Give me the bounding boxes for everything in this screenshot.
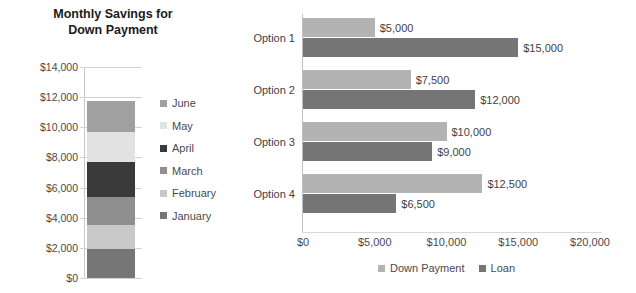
category-label-option-1: Option 1	[229, 32, 303, 44]
stack-segment-april	[87, 162, 135, 197]
legend-label: Down Payment	[390, 262, 465, 274]
stack-segment-february	[87, 225, 135, 250]
legend-label: March	[172, 165, 203, 177]
right-chart-plot-area: Option 1Option 2Option 3Option 4 $5,000$…	[303, 14, 590, 232]
left-chart-y-tick-label: $4,000	[10, 212, 85, 224]
legend-label: June	[172, 97, 196, 109]
bar-option-3-loan	[303, 142, 432, 161]
legend-label: April	[172, 142, 194, 154]
legend-item-loan[interactable]: Loan	[479, 262, 515, 274]
right-chart-legend: Down PaymentLoan	[303, 262, 590, 274]
category-label-option-2: Option 2	[229, 84, 303, 96]
left-chart-y-tick-label: $8,000	[10, 151, 85, 163]
legend-label: February	[172, 187, 216, 199]
bar-value-label-option-2-down-payment: $7,500	[411, 74, 450, 86]
bar-option-1-down-payment	[303, 18, 375, 37]
legend-swatch-icon	[378, 265, 385, 272]
left-chart-y-tick-label: $6,000	[10, 182, 85, 194]
left-chart-gridline	[80, 97, 142, 98]
options-comparison-bar-chart: Option 1Option 2Option 3Option 4 $5,000$…	[232, 0, 636, 293]
legend-swatch-icon	[479, 265, 486, 272]
bar-value-label-option-4-loan: $6,500	[396, 198, 435, 210]
bar-value-label-option-3-loan: $9,000	[432, 146, 471, 158]
left-chart-y-tick-label: $12,000	[10, 91, 85, 103]
left-chart-gridline	[80, 67, 142, 68]
right-chart-x-tick-label: $0	[297, 236, 309, 248]
right-chart-x-tick-label: $5,000	[358, 236, 392, 248]
left-chart-y-tick-label: $14,000	[10, 61, 85, 73]
bar-option-2-loan	[303, 90, 475, 109]
legend-label: Loan	[491, 262, 515, 274]
stack-segment-january	[87, 249, 135, 278]
bar-value-label-option-4-down-payment: $12,500	[482, 178, 527, 190]
monthly-savings-stacked-chart: Monthly Savings for Down Payment $14,000…	[0, 0, 245, 293]
left-chart-gridline	[80, 278, 142, 279]
legend-item-down-payment[interactable]: Down Payment	[378, 262, 465, 274]
category-label-option-3: Option 3	[229, 136, 303, 148]
legend-item-january[interactable]: January	[160, 210, 216, 222]
category-label-option-4: Option 4	[229, 188, 303, 200]
left-chart-title: Monthly Savings for Down Payment	[8, 6, 218, 38]
legend-swatch-icon	[160, 167, 167, 174]
left-chart-legend: JuneMayAprilMarchFebruaryJanuary	[160, 97, 216, 222]
legend-item-february[interactable]: February	[160, 187, 216, 199]
stack-segment-may	[87, 132, 135, 162]
legend-swatch-icon	[160, 212, 167, 219]
stack-segment-june	[87, 101, 135, 132]
left-chart-title-line-1: Monthly Savings for	[8, 6, 218, 22]
bar-option-4-loan	[303, 194, 396, 213]
legend-swatch-icon	[160, 145, 167, 152]
bar-value-label-option-3-down-payment: $10,000	[447, 126, 492, 138]
legend-item-june[interactable]: June	[160, 97, 216, 109]
left-chart-y-tick-label: $10,000	[10, 121, 85, 133]
bar-option-4-down-payment	[303, 174, 482, 193]
right-chart-x-tick-label: $10,000	[427, 236, 467, 248]
bar-value-label-option-1-loan: $15,000	[518, 42, 563, 54]
stack-segment-march	[87, 197, 135, 225]
bar-option-1-loan	[303, 38, 518, 57]
legend-swatch-icon	[160, 122, 167, 129]
bar-option-2-down-payment	[303, 70, 411, 89]
left-chart-y-tick-label: $2,000	[10, 242, 85, 254]
legend-label: May	[172, 120, 193, 132]
left-chart-title-line-2: Down Payment	[8, 22, 218, 38]
legend-swatch-icon	[160, 100, 167, 107]
bar-value-label-option-2-loan: $12,000	[475, 94, 520, 106]
left-chart-y-tick-label: $0	[10, 272, 85, 284]
legend-label: January	[172, 210, 211, 222]
right-chart-x-tick-label: $20,000	[570, 236, 610, 248]
legend-item-may[interactable]: May	[160, 120, 216, 132]
legend-swatch-icon	[160, 190, 167, 197]
bar-value-label-option-1-down-payment: $5,000	[375, 22, 414, 34]
bar-option-3-down-payment	[303, 122, 447, 141]
legend-item-march[interactable]: March	[160, 165, 216, 177]
left-chart-plot-area: $14,000$12,000$10,000$8,000$6,000$4,000$…	[85, 67, 137, 278]
right-chart-x-axis-line	[302, 232, 602, 233]
right-chart-x-tick-label: $15,000	[498, 236, 538, 248]
legend-item-april[interactable]: April	[160, 142, 216, 154]
